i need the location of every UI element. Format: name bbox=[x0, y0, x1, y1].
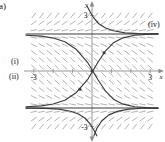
curve-label-iv: (iv) bbox=[148, 20, 160, 29]
figure-panel-a: a) (i) (ii) (iv) xy-333-3 bbox=[0, 0, 165, 142]
marked-point bbox=[91, 70, 94, 73]
direction-field-plot: xy-333-3 bbox=[0, 0, 165, 142]
marked-point bbox=[78, 88, 81, 91]
curve-label-i: (i) bbox=[11, 57, 19, 66]
x-tick-label: 3 bbox=[148, 73, 152, 82]
x-tick-label: -3 bbox=[31, 73, 37, 82]
curve-label-ii: (ii) bbox=[9, 72, 19, 81]
y-tick-label: 3 bbox=[84, 11, 88, 20]
marked-point bbox=[103, 51, 106, 54]
x-axis-name: x bbox=[158, 73, 163, 81]
panel-label: a) bbox=[0, 1, 6, 11]
y-tick-label: -3 bbox=[81, 123, 87, 132]
